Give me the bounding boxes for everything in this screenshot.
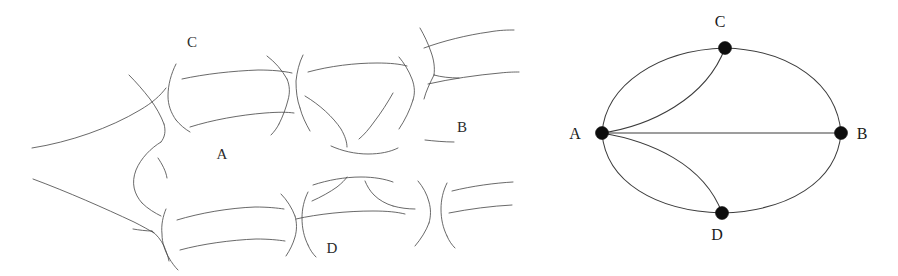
map-boundary-strokes [32,28,519,270]
map-label-A: A [217,146,228,162]
figure-root: C A B D [0,0,898,276]
map-label-D: D [327,240,338,256]
edge-B-D-outer [722,133,841,213]
planar-graph-panel: A B C D [520,0,898,276]
graph-node-D[interactable] [716,207,729,220]
graph-label-B: B [857,125,868,142]
planar-graph-svg: A B C D [520,0,898,276]
edge-A-D-inner [602,133,722,213]
hand-drawn-map-panel: C A B D [0,0,520,276]
graph-nodes [596,42,848,220]
map-label-C: C [187,34,197,50]
edge-C-B-outer [725,48,841,133]
edge-D-A-outer [602,133,722,213]
map-label-B: B [457,119,467,135]
graph-label-C: C [715,13,726,30]
hand-drawn-map-svg: C A B D [0,0,520,276]
graph-node-B[interactable] [835,127,848,140]
graph-node-A[interactable] [596,127,609,140]
edge-A-C-outer [602,48,725,133]
graph-node-C[interactable] [719,42,732,55]
graph-label-A: A [569,125,581,142]
graph-label-D: D [711,226,723,243]
graph-edges [602,48,841,213]
